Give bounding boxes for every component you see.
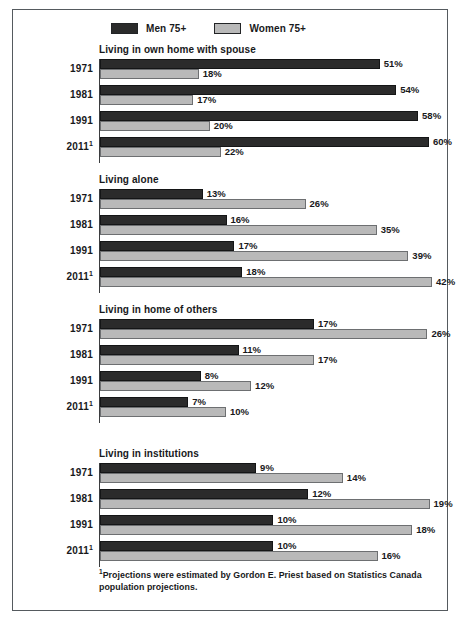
bar-value-label: 14% xyxy=(347,472,366,483)
bar-women xyxy=(100,277,432,287)
bar-row-women: 39% xyxy=(100,251,439,261)
bar-men xyxy=(100,515,273,525)
year-footnote-marker: 1 xyxy=(89,140,93,147)
bar-men xyxy=(100,215,227,225)
panel-title: Living alone xyxy=(99,174,159,185)
bar-value-label: 11% xyxy=(243,344,262,355)
bar-men xyxy=(100,345,239,355)
year-axis-label: 1981 xyxy=(70,493,93,504)
year-axis-label: 1981 xyxy=(70,89,93,100)
bar-row-women: 17% xyxy=(100,355,439,365)
year-group: 19719%14% xyxy=(100,463,439,485)
bar-women xyxy=(100,381,251,391)
year-group: 199117%39% xyxy=(100,241,439,263)
bar-value-label: 17% xyxy=(197,94,216,105)
bar-value-label: 54% xyxy=(400,84,419,95)
chart-frame: Men 75+ Women 75+ Living in own home wit… xyxy=(12,9,448,611)
bar-value-label: 60% xyxy=(433,136,452,147)
year-axis-label: 1991 xyxy=(70,375,93,386)
bar-row-men: 9% xyxy=(100,463,439,473)
bar-value-label: 10% xyxy=(230,406,249,417)
bar-row-women: 18% xyxy=(100,69,439,79)
year-group: 2011160%22% xyxy=(100,137,439,159)
bar-value-label: 17% xyxy=(238,240,257,251)
bar-value-label: 51% xyxy=(384,58,403,69)
year-axis-label: 1991 xyxy=(70,519,93,530)
year-group: 2011110%16% xyxy=(100,541,439,563)
bar-women xyxy=(100,199,306,209)
year-axis-label: 1971 xyxy=(70,193,93,204)
bar-row-women: 17% xyxy=(100,95,439,105)
year-axis-label: 20111 xyxy=(66,401,93,412)
bar-men xyxy=(100,137,429,147)
bar-row-men: 7% xyxy=(100,397,439,407)
bar-men xyxy=(100,189,203,199)
bar-value-label: 19% xyxy=(434,498,453,509)
bar-women xyxy=(100,121,210,131)
bar-value-label: 35% xyxy=(381,224,400,235)
panel-title: Living in home of others xyxy=(99,304,218,315)
bar-row-men: 60% xyxy=(100,137,439,147)
panel-plot-area: 197113%26%198116%35%199117%39%2011118%42… xyxy=(99,189,439,293)
year-footnote-marker: 1 xyxy=(89,270,93,277)
bar-men xyxy=(100,59,380,69)
year-axis-label: 1971 xyxy=(70,323,93,334)
bar-row-women: 20% xyxy=(100,121,439,131)
year-footnote-marker: 1 xyxy=(89,400,93,407)
bar-value-label: 17% xyxy=(318,354,337,365)
year-axis-label: 1971 xyxy=(70,63,93,74)
bar-men xyxy=(100,319,314,329)
bar-women xyxy=(100,225,377,235)
bar-men xyxy=(100,371,201,381)
bar-row-men: 18% xyxy=(100,267,439,277)
bar-row-men: 10% xyxy=(100,515,439,525)
bar-women xyxy=(100,473,343,483)
bar-row-men: 11% xyxy=(100,345,439,355)
bar-men xyxy=(100,541,273,551)
bar-row-men: 17% xyxy=(100,319,439,329)
bar-women xyxy=(100,95,193,105)
bar-men xyxy=(100,241,234,251)
bar-row-women: 22% xyxy=(100,147,439,157)
bar-value-label: 39% xyxy=(412,250,431,261)
bar-row-men: 54% xyxy=(100,85,439,95)
bar-value-label: 18% xyxy=(416,524,435,535)
bar-value-label: 16% xyxy=(231,214,250,225)
bar-value-label: 9% xyxy=(260,462,274,473)
bar-row-men: 58% xyxy=(100,111,439,121)
chart-legend: Men 75+ Women 75+ xyxy=(13,23,447,34)
bar-value-label: 58% xyxy=(422,110,441,121)
chart-footnote: 1Projections were estimated by Gordon E.… xyxy=(99,570,429,593)
bar-men xyxy=(100,267,242,277)
legend-entry-women: Women 75+ xyxy=(214,23,306,34)
bar-value-label: 8% xyxy=(205,370,219,381)
year-group: 198112%19% xyxy=(100,489,439,511)
bar-row-women: 42% xyxy=(100,277,439,287)
panel-plot-area: 197151%18%198154%17%199158%20%2011160%22… xyxy=(99,59,439,163)
bar-women xyxy=(100,525,412,535)
bar-row-men: 51% xyxy=(100,59,439,69)
bar-row-men: 12% xyxy=(100,489,439,499)
panel-plot-area: 197117%26%198111%17%19918%12%201117%10% xyxy=(99,319,439,423)
bar-men xyxy=(100,85,396,95)
year-group: 198154%17% xyxy=(100,85,439,107)
bar-women xyxy=(100,499,430,509)
panel-plot-area: 19719%14%198112%19%199110%18%2011110%16% xyxy=(99,463,439,567)
bar-value-label: 26% xyxy=(310,198,329,209)
bar-row-men: 17% xyxy=(100,241,439,251)
year-axis-label: 1981 xyxy=(70,219,93,230)
bar-row-women: 19% xyxy=(100,499,439,509)
year-axis-label: 1981 xyxy=(70,349,93,360)
year-axis-label: 20111 xyxy=(66,141,93,152)
bar-row-women: 26% xyxy=(100,199,439,209)
bar-row-women: 12% xyxy=(100,381,439,391)
bar-row-women: 18% xyxy=(100,525,439,535)
bar-row-women: 14% xyxy=(100,473,439,483)
bar-value-label: 7% xyxy=(192,396,206,407)
year-group: 201117%10% xyxy=(100,397,439,419)
bar-value-label: 42% xyxy=(436,276,455,287)
bar-value-label: 12% xyxy=(312,488,331,499)
bar-men xyxy=(100,489,308,499)
year-axis-label: 1971 xyxy=(70,467,93,478)
bar-value-label: 10% xyxy=(277,540,296,551)
